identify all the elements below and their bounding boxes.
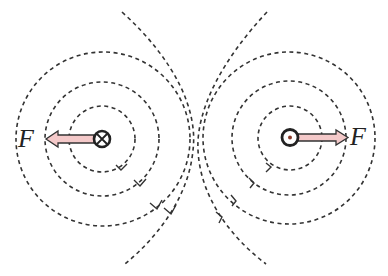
chevron-icon — [266, 163, 271, 172]
chevron-icon — [231, 195, 236, 206]
chevron-icon — [216, 212, 222, 223]
field-diagram: F F — [0, 0, 388, 276]
right-force-label: F — [350, 124, 366, 150]
direction-chevrons — [116, 163, 271, 223]
current-into-page-icon — [94, 131, 110, 147]
left-force-label: F — [18, 126, 34, 152]
chevron-icon — [249, 178, 254, 188]
chevron-icon — [150, 200, 162, 209]
field-lines-svg — [0, 0, 388, 276]
current-out-of-page-icon — [282, 130, 298, 146]
left-open-field-line — [122, 12, 194, 264]
right-force-arrow — [298, 130, 348, 145]
right-open-field-line — [198, 12, 267, 264]
